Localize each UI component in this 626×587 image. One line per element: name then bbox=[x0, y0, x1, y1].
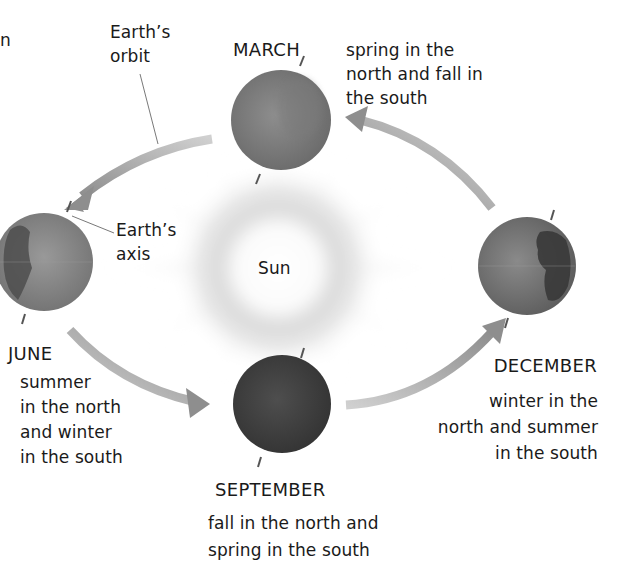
june-label: JUNE bbox=[8, 342, 53, 366]
earth-orbit-diagram: n Earth’s orbit Earth’s axis Sun MARCH s… bbox=[0, 0, 626, 587]
march-description-line: the south bbox=[346, 86, 483, 110]
june-description-line: and winter bbox=[20, 420, 123, 445]
september-label: SEPTEMBER bbox=[215, 478, 325, 502]
september-description-line: spring in the south bbox=[208, 537, 379, 564]
title-fragment: n bbox=[0, 28, 11, 52]
june-description-line: in the south bbox=[20, 445, 123, 470]
december-description-line: in the south bbox=[438, 440, 598, 466]
march-description: spring in the north and fall in the sout… bbox=[346, 38, 483, 110]
june-description-line: summer bbox=[20, 370, 123, 395]
september-description: fall in the north and spring in the sout… bbox=[208, 510, 379, 564]
orbit-arrow-march-to-june bbox=[64, 139, 212, 212]
earth-orbit-label-line2: orbit bbox=[110, 44, 171, 68]
earth-axis-label-line2: axis bbox=[116, 242, 177, 266]
sun-label: Sun bbox=[258, 256, 291, 280]
december-label: DECEMBER bbox=[494, 354, 597, 378]
june-description-line: in the north bbox=[20, 395, 123, 420]
december-description: winter in the north and summer in the so… bbox=[438, 388, 598, 466]
earth-orbit-label-line1: Earth’s bbox=[110, 20, 171, 44]
march-description-line: north and fall in bbox=[346, 62, 483, 86]
earth-axis-label-line1: Earth’s bbox=[116, 218, 177, 242]
earth-june bbox=[0, 201, 93, 324]
march-label: MARCH bbox=[233, 38, 300, 62]
earth-axis-label: Earth’s axis bbox=[116, 218, 177, 266]
earth-december bbox=[478, 210, 576, 328]
december-description-line: north and summer bbox=[438, 414, 598, 440]
december-description-line: winter in the bbox=[438, 388, 598, 414]
earth-orbit-label: Earth’s orbit bbox=[110, 20, 171, 68]
orbit-leader-line bbox=[140, 74, 158, 144]
september-description-line: fall in the north and bbox=[208, 510, 379, 537]
march-description-line: spring in the bbox=[346, 38, 483, 62]
earth-march bbox=[231, 56, 331, 184]
june-description: summer in the north and winter in the so… bbox=[20, 370, 123, 470]
orbit-arrow-december-to-march bbox=[345, 106, 492, 208]
